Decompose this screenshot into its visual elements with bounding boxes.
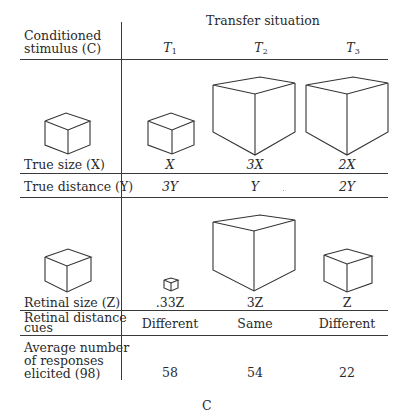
value-t2-responses: 54 xyxy=(210,366,300,380)
value-t3-retinal-cues: Different xyxy=(302,317,392,331)
value-t2-true-size: 3X xyxy=(210,158,300,172)
cube-t3-retinal-size xyxy=(323,248,373,292)
row-label-average-responses: Average number of responses elicited (98… xyxy=(24,341,129,380)
value-t3-true-size: 2X xyxy=(302,158,392,172)
stray-dot xyxy=(283,190,284,191)
corner-header-line2: stimulus (C) xyxy=(24,42,101,55)
cube-t1-true-size xyxy=(147,112,195,154)
value-t1-retinal-cues: Different xyxy=(125,317,215,331)
row-label-retinal-distance-cues: Retinal distance cues xyxy=(24,313,127,333)
cube-conditioned-true-size xyxy=(44,112,92,154)
row-label-true-distance: True distance (Y) xyxy=(24,180,133,193)
corner-header: Conditioned stimulus (C) xyxy=(24,29,101,55)
value-t1-true-size: X xyxy=(125,158,215,172)
column-header-t3: T3 xyxy=(308,41,398,59)
cube-t2-retinal-size xyxy=(212,214,296,292)
value-t1-retinal-size: .33Z xyxy=(125,296,215,310)
value-t1-responses: 58 xyxy=(125,366,215,380)
cube-t3-true-size xyxy=(305,76,389,156)
cube-conditioned-retinal-size xyxy=(44,248,92,292)
value-t3-retinal-size: Z xyxy=(302,296,392,310)
row-label-true-size: True size (X) xyxy=(24,158,105,171)
cube-t1-retinal-size xyxy=(163,277,179,292)
value-t2-retinal-size: 3Z xyxy=(210,296,300,310)
true-distance-rule xyxy=(20,197,388,198)
retinal-cues-rule xyxy=(20,335,388,336)
value-t2-retinal-cues: Same xyxy=(210,317,300,331)
true-size-rule xyxy=(20,173,388,174)
column-header-t1: T1 xyxy=(125,41,215,59)
value-t1-true-distance: 3Y xyxy=(125,180,215,194)
figure-caption: C xyxy=(202,399,212,412)
column-header-t2: T2 xyxy=(216,41,306,59)
value-t3-responses: 22 xyxy=(302,366,392,380)
value-t3-true-distance: 2Y xyxy=(302,180,392,194)
header-rule xyxy=(20,59,388,60)
cube-t2-true-size xyxy=(212,76,296,156)
group-header: Transfer situation xyxy=(206,14,320,27)
value-t2-true-distance: Y xyxy=(210,180,300,194)
row-label-retinal-size: Retinal size (Z) xyxy=(24,296,120,309)
